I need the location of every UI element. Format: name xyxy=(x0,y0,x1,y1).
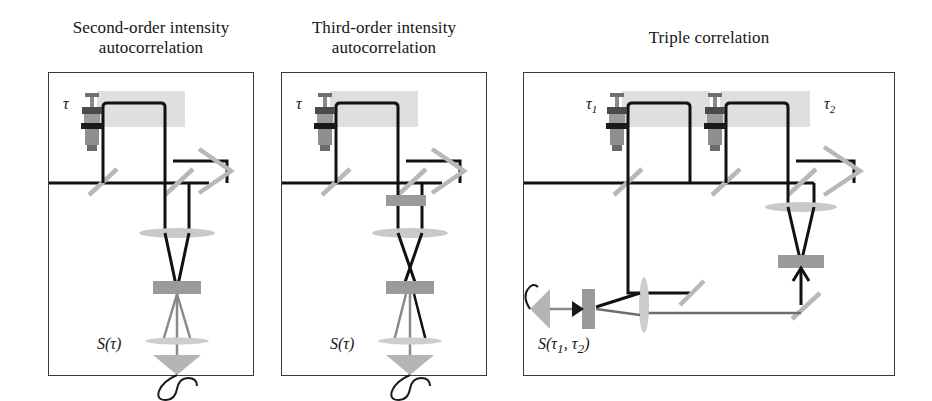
delay-highlight-1 xyxy=(622,91,710,127)
detector-icon xyxy=(386,355,434,375)
panel-title-line1: Second-order intensity xyxy=(48,18,254,38)
signal-b xyxy=(414,294,426,341)
output-label-prefix: S( xyxy=(538,335,551,352)
delay-highlight xyxy=(330,91,418,127)
optical-diagram-third-order xyxy=(282,73,488,377)
converge-a xyxy=(165,233,176,285)
delay-label-tau-2: τ2 xyxy=(824,95,835,115)
delay-highlight-2 xyxy=(720,91,810,127)
detector-cable-icon xyxy=(158,375,197,400)
signal-a xyxy=(394,294,406,341)
output-label-s-tau1-tau2: S(τ1, τ2) xyxy=(538,335,589,357)
panel-title-line1: Triple correlation xyxy=(523,28,895,48)
fold-mirror-icon xyxy=(792,293,820,319)
panel-title-line2: autocorrelation xyxy=(48,38,254,58)
delay-highlight xyxy=(97,91,185,127)
collection-lens-icon xyxy=(145,338,209,345)
output-label-s-tau: S(τ) xyxy=(97,335,121,353)
optical-diagram-triple-correlation xyxy=(524,73,896,377)
optical-diagram-second-order xyxy=(49,73,255,377)
detector-icon xyxy=(153,355,201,375)
panel-triple-correlation: τ1 τ2 S(τ1, τ2) xyxy=(523,72,895,376)
panel-title-third-order: Third-order intensity autocorrelation xyxy=(281,18,487,58)
focusing-lens-icon xyxy=(139,228,215,238)
left-branch-beam xyxy=(628,183,690,293)
output-label-comma: , xyxy=(564,335,572,352)
side-detector-icon xyxy=(530,289,550,329)
converge-a xyxy=(788,207,800,259)
delay-label-tau-1-subscript: 1 xyxy=(592,103,598,115)
focusing-lens-icon xyxy=(765,202,837,212)
detector-cable-icon xyxy=(391,375,430,400)
nonlinear-crystal-icon xyxy=(386,281,434,294)
output-label-tau1-sub: 1 xyxy=(557,341,564,356)
focusing-lens-icon xyxy=(372,228,448,238)
first-crystal-icon xyxy=(386,195,426,206)
collection-lens-icon xyxy=(378,338,442,345)
panel-title-line2: autocorrelation xyxy=(281,38,487,58)
converge-b xyxy=(178,233,189,285)
side-converge-b xyxy=(596,309,640,315)
panel-second-order: τ S(τ) xyxy=(48,72,254,376)
delay-label-tau: τ xyxy=(296,95,302,113)
nonlinear-crystal-icon xyxy=(153,281,201,294)
delay-label-tau-2-subscript: 2 xyxy=(830,103,836,115)
signal-a xyxy=(163,294,177,341)
side-converge-a xyxy=(596,293,640,307)
side-collection-lens-icon xyxy=(639,277,649,333)
delay-label-tau: τ xyxy=(63,95,69,113)
panel-title-triple-correlation: Triple correlation xyxy=(523,28,895,48)
signal-b xyxy=(177,294,191,341)
panel-title-line1: Third-order intensity xyxy=(281,18,487,38)
output-label-s-tau: S(τ) xyxy=(330,335,354,353)
converge-b xyxy=(802,207,814,259)
delay-label-tau-1: τ1 xyxy=(586,95,597,115)
output-label-close: ) xyxy=(584,335,589,352)
panel-third-order: τ S(τ) xyxy=(281,72,487,376)
panel-title-second-order: Second-order intensity autocorrelation xyxy=(48,18,254,58)
